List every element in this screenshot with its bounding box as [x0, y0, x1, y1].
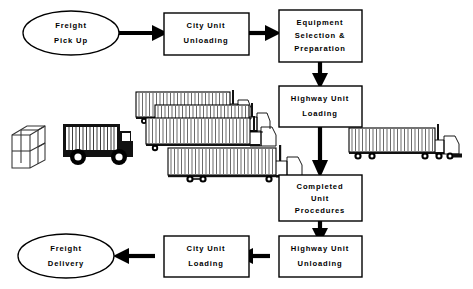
edge-equipment-to-highway-loading [312, 62, 328, 89]
package-cube-icon [12, 126, 45, 168]
equipment-selection-label-line-1: Equipment [297, 18, 344, 27]
city-unit-unloading-label-line-1: City Unit [187, 21, 226, 30]
city-unit-loading-label-line-2: Loading [188, 259, 223, 268]
edge-city-loading-to-delivery [113, 248, 155, 264]
edge-pickup-to-city-unloading [118, 25, 168, 41]
highway-unit-unloading-label-line-1: Highway Unit [291, 244, 349, 253]
equipment-selection-label-line-3: Preparation [294, 44, 346, 53]
highway-unit-unloading-label-line-2: Unloading [298, 259, 343, 268]
freight-pickup-label-line-2: Pick Up [54, 36, 88, 45]
semi-trailer-3 [146, 116, 276, 151]
node-city-unit-unloading[interactable]: City Unit Unloading [164, 13, 249, 55]
edge-highway-loading-to-completed [312, 127, 328, 178]
node-completed-unit-procedures[interactable]: Completed Unit Procedures [279, 175, 362, 221]
city-delivery-truck-icon [63, 124, 133, 165]
city-unit-loading-label-line-1: City Unit [187, 244, 226, 253]
node-freight-delivery[interactable]: Freight Delivery [18, 234, 114, 278]
node-freight-pickup[interactable]: Freight Pick Up [23, 11, 119, 55]
city-unit-unloading-label-line-2: Unloading [184, 36, 229, 45]
node-highway-unit-loading[interactable]: Highway Unit Loading [279, 86, 362, 127]
freight-delivery-label-line-2: Delivery [48, 259, 84, 268]
highway-unit-loading-label-line-1: Highway Unit [291, 94, 349, 103]
flowchart-canvas: Freight Pick Up City Unit Unloading Equi… [0, 0, 473, 289]
highway-unit-loading-label-line-2: Loading [302, 109, 337, 118]
freight-delivery-label-line-1: Freight [50, 244, 82, 253]
edge-city-unloading-to-equipment [249, 25, 281, 41]
equipment-selection-label-line-2: Selection & [295, 31, 346, 40]
completed-unit-procedures-label-line-1: Completed [297, 182, 344, 191]
freight-pickup-label-line-1: Freight [55, 21, 87, 30]
completed-unit-procedures-label-line-2: Unit [311, 194, 329, 203]
completed-unit-procedures-label-line-3: Procedures [295, 206, 345, 215]
node-equipment-selection[interactable]: Equipment Selection & Preparation [279, 10, 362, 62]
highway-semi-truck-icon [349, 124, 462, 160]
node-highway-unit-unloading[interactable]: Highway Unit Unloading [279, 236, 362, 277]
node-city-unit-loading[interactable]: City Unit Loading [164, 236, 249, 277]
